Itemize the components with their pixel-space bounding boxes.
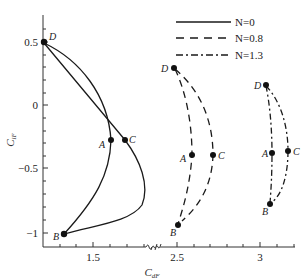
label-b-n0: B xyxy=(53,231,59,242)
svg-text:ClF: ClF xyxy=(4,133,18,147)
x-tick-label-1.5: 1.5 xyxy=(86,251,100,263)
label-a-n1.3: A xyxy=(261,148,269,159)
legend-label-n0: N=0 xyxy=(235,16,255,28)
point-a-n0 xyxy=(108,137,114,143)
y-tick-label-0: 0 xyxy=(33,99,39,111)
label-a-n0: A xyxy=(98,139,106,150)
y-tick-label-0.5: 0.5 xyxy=(24,36,38,48)
chart-figure: 0.5 0 −0.5 −1 ClF xyxy=(0,0,307,280)
label-c-n0.8: C xyxy=(218,150,225,161)
x-axis: 1.5 2.5 3 CdF xyxy=(43,242,295,280)
y-tick-label-neg0.5: −0.5 xyxy=(18,162,38,174)
label-d-n0.8: D xyxy=(160,63,169,74)
point-d-n0.8 xyxy=(171,65,177,71)
x-tick-label-3: 3 xyxy=(257,251,263,263)
label-c-n1.3: C xyxy=(293,146,300,157)
point-a-n0.8 xyxy=(189,152,195,158)
legend-label-n1.3: N=1.3 xyxy=(235,49,263,61)
point-d-n0 xyxy=(41,39,47,45)
label-c-n0: C xyxy=(129,134,136,145)
point-a-n1.3 xyxy=(269,150,275,156)
label-b-n0.8: B xyxy=(170,227,176,238)
point-d-n1.3 xyxy=(263,82,269,88)
label-d-n1.3: D xyxy=(253,80,262,91)
x-tick-label-2.5: 2.5 xyxy=(170,251,184,263)
label-b-n1.3: B xyxy=(262,206,268,217)
series-n0-points xyxy=(41,39,128,237)
axis-break-icon xyxy=(146,244,161,250)
y-tick-label-neg1: −1 xyxy=(26,227,38,239)
point-c-n0.8 xyxy=(210,152,216,158)
series-n1.3 xyxy=(266,86,288,203)
label-a-n0.8: A xyxy=(179,153,187,164)
label-d-n0: D xyxy=(48,31,57,42)
y-axis-title: ClF xyxy=(4,133,18,147)
legend-label-n0.8: N=0.8 xyxy=(235,32,263,44)
point-c-n1.3 xyxy=(285,148,291,154)
y-axis: 0.5 0 −0.5 −1 ClF xyxy=(4,15,48,247)
point-b-n0 xyxy=(61,231,67,237)
legend: N=0 N=0.8 N=1.3 xyxy=(176,16,263,61)
series-n0.8 xyxy=(175,69,213,224)
x-axis-title: CdF xyxy=(144,266,160,280)
point-c-n0 xyxy=(122,137,128,143)
